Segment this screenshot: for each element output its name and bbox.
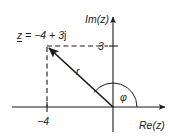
imaginary-axis-tick-label: 3: [98, 41, 104, 52]
complex-number-value: −4 + 3: [34, 29, 64, 41]
angle-label: φ: [120, 92, 127, 103]
imaginary-unit-symbol: j: [64, 29, 66, 41]
complex-number-label: z = −4 + 3j: [17, 30, 66, 41]
real-axis-tick-label: −4: [37, 116, 49, 127]
real-axis-label: Re(z): [139, 120, 165, 131]
imaginary-axis-label: Im(z): [85, 14, 109, 25]
magnitude-vector-arrow: [49, 48, 113, 107]
complex-number-equals: =: [22, 29, 34, 41]
argand-diagram-figure: Im(z) Re(z) z = −4 + 3j 3 −4 r φ: [0, 0, 177, 139]
magnitude-label: r: [76, 66, 80, 77]
